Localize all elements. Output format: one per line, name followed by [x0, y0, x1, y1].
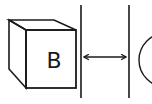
diagram-canvas: B [0, 0, 152, 104]
cube-b: B [9, 20, 76, 88]
cube-side-face [9, 20, 26, 88]
cube-label: B [46, 48, 61, 73]
partial-circle [139, 33, 152, 87]
